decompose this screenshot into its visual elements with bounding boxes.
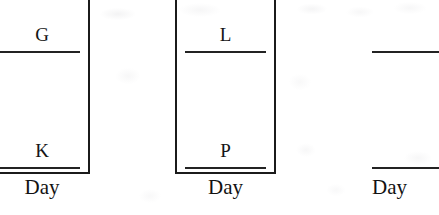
- reference-rule-lower-left: [0, 167, 80, 169]
- series-label-upper-left: G: [10, 25, 74, 44]
- series-label-upper-middle: L: [185, 25, 266, 44]
- x-axis-label-middle: Day: [185, 177, 266, 198]
- series-label-lower-middle: P: [185, 141, 266, 160]
- x-axis-label-right: Day: [368, 177, 439, 198]
- series-label-lower-left: K: [10, 141, 74, 160]
- reference-rule-lower-right: [372, 167, 439, 169]
- reference-rule-lower-middle: [185, 167, 266, 169]
- x-axis-label-left: Day: [8, 177, 76, 198]
- reference-rule-upper-middle: [185, 51, 266, 53]
- reference-rule-upper-right: [372, 51, 439, 53]
- figure-panel-middle: L P Day: [150, 0, 300, 215]
- reference-rule-upper-left: [0, 51, 80, 53]
- figure-panel-left: G K Day: [0, 0, 150, 215]
- figure-panel-right: Day: [300, 0, 439, 215]
